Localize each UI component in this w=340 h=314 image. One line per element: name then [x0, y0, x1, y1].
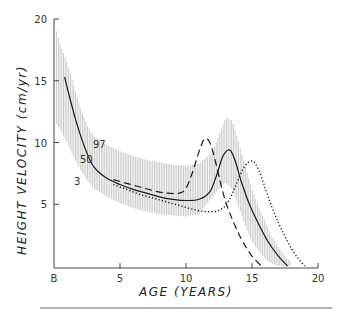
height-velocity-chart: B51015205101520 97 50 3 AGE (YEARS) HEIG…	[0, 0, 340, 314]
axis-ticks: B51015205101520	[34, 14, 324, 284]
centile-3-label: 3	[74, 176, 80, 187]
centile-band-hatching	[57, 31, 290, 266]
x-tick-label: B	[51, 273, 58, 284]
x-tick-label: 20	[312, 273, 325, 284]
x-axis-title: AGE (YEARS)	[138, 285, 233, 299]
y-tick-label: 5	[41, 199, 47, 210]
x-tick-label: 15	[246, 273, 259, 284]
y-tick-label: 15	[34, 76, 47, 87]
x-tick-label: 10	[180, 273, 193, 284]
y-axis-title: HEIGHT VELOCITY (cm/yr)	[15, 65, 29, 255]
y-tick-label: 20	[34, 14, 47, 25]
centile-97-label: 97	[93, 139, 106, 150]
centile-50-label: 50	[80, 154, 93, 165]
velocity-curves	[65, 77, 305, 266]
x-tick-label: 5	[117, 273, 123, 284]
y-tick-label: 10	[34, 138, 47, 149]
